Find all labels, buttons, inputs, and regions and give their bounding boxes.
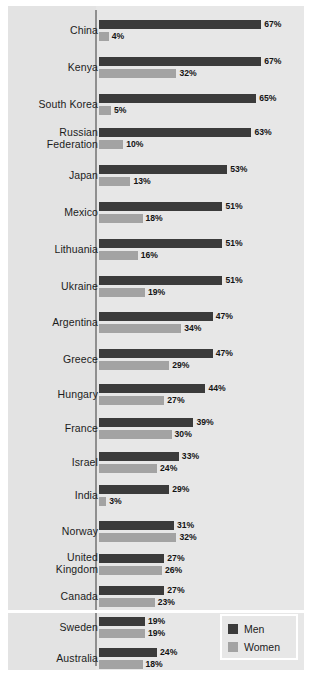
bar-value-men: 39% [196, 417, 213, 427]
category-label: Greece [0, 354, 98, 366]
category-label: Japan [0, 170, 98, 182]
bar-value-women: 10% [126, 139, 143, 149]
bar-value-men: 53% [230, 164, 247, 174]
bar-women [99, 566, 162, 575]
bar-men [99, 418, 193, 427]
bar-value-men: 47% [216, 348, 233, 358]
category-label-line: Sweden [0, 622, 98, 634]
bar-men [99, 554, 164, 563]
category-label: France [0, 423, 98, 435]
bar-men [99, 521, 174, 530]
bar-women [99, 464, 157, 473]
bar-value-women: 24% [160, 463, 177, 473]
category-label-line: Hungary [0, 389, 98, 401]
bar-men [99, 239, 222, 248]
bar-value-women: 27% [167, 395, 184, 405]
bar-women [99, 629, 145, 638]
bar-value-women: 18% [146, 213, 163, 223]
legend-swatch-women-icon [228, 642, 238, 652]
bar-women [99, 361, 169, 370]
category-label: Sweden [0, 622, 98, 634]
bar-value-men: 19% [148, 616, 165, 626]
bar-men [99, 57, 261, 66]
bar-value-men: 29% [172, 484, 189, 494]
bar-men [99, 276, 222, 285]
bar-women [99, 288, 145, 297]
category-label: Ukraine [0, 281, 98, 293]
category-label-line: United [0, 552, 98, 564]
bar-men [99, 384, 205, 393]
bar-value-men: 67% [264, 19, 281, 29]
category-label: UnitedKingdom [0, 552, 98, 575]
bar-women [99, 324, 181, 333]
bar-value-men: 67% [264, 56, 281, 66]
category-label-line: India [0, 490, 98, 502]
category-label-line: Kingdom [0, 564, 98, 576]
bar-value-women: 29% [172, 360, 189, 370]
category-label-line: Argentina [0, 317, 98, 329]
category-label-line: Norway [0, 526, 98, 538]
category-label-line: Israel [0, 457, 98, 469]
category-label-line: Federation [0, 139, 98, 151]
bar-value-men: 63% [254, 127, 271, 137]
bar-value-women: 32% [179, 532, 196, 542]
category-label: Australia [0, 653, 98, 665]
bar-women [99, 106, 111, 115]
bar-men [99, 312, 213, 321]
bar-men [99, 617, 145, 626]
bar-men [99, 349, 213, 358]
bar-women [99, 251, 138, 260]
bar-women [99, 214, 143, 223]
category-label-line: Lithuania [0, 244, 98, 256]
bar-value-women: 16% [141, 250, 158, 260]
category-label: Canada [0, 591, 98, 603]
legend-label-men: Men [244, 622, 264, 636]
category-label: Argentina [0, 317, 98, 329]
bar-value-men: 51% [225, 275, 242, 285]
bar-value-men: 65% [259, 93, 276, 103]
bar-women [99, 140, 123, 149]
bar-women [99, 69, 176, 78]
category-label: India [0, 490, 98, 502]
bar-value-men: 44% [208, 383, 225, 393]
bar-value-men: 33% [182, 451, 199, 461]
category-label-line: Mexico [0, 207, 98, 219]
bar-value-women: 23% [158, 597, 175, 607]
bar-value-women: 13% [133, 176, 150, 186]
bar-women [99, 32, 109, 41]
bar-women [99, 430, 172, 439]
legend-swatch-men-icon [228, 624, 238, 634]
bar-value-women: 19% [148, 287, 165, 297]
bar-men [99, 202, 222, 211]
category-label: Israel [0, 457, 98, 469]
category-label: Norway [0, 526, 98, 538]
bar-value-men: 31% [177, 520, 194, 530]
category-label-line: Australia [0, 653, 98, 665]
bar-men [99, 485, 169, 494]
category-label: Hungary [0, 389, 98, 401]
united-states-separator [8, 610, 304, 613]
category-label-line: Canada [0, 591, 98, 603]
category-label-line: Russian [0, 127, 98, 139]
bar-value-women: 3% [109, 496, 121, 506]
bar-value-men: 27% [167, 585, 184, 595]
bar-men [99, 586, 164, 595]
category-label-line: China [0, 25, 98, 37]
category-label-line: Kenya [0, 62, 98, 74]
category-label: Kenya [0, 62, 98, 74]
legend-label-women: Women [244, 640, 280, 654]
bar-men [99, 452, 179, 461]
bar-value-women: 26% [165, 565, 182, 575]
bar-men [99, 648, 157, 657]
category-label-line: France [0, 423, 98, 435]
bar-men [99, 94, 256, 103]
bar-women [99, 533, 176, 542]
bar-women [99, 497, 106, 506]
bar-value-women: 32% [179, 68, 196, 78]
bar-women [99, 660, 143, 669]
bar-value-men: 47% [216, 311, 233, 321]
category-label: RussianFederation [0, 127, 98, 150]
bar-value-men: 51% [225, 201, 242, 211]
category-label: Mexico [0, 207, 98, 219]
bar-value-women: 30% [175, 429, 192, 439]
